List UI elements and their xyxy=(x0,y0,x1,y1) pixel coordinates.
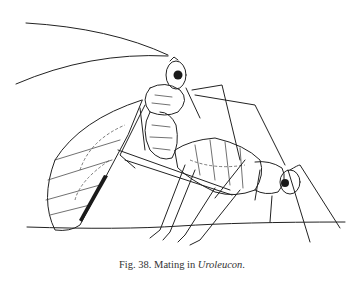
male-leg xyxy=(118,150,230,190)
female-thorax xyxy=(255,162,284,194)
female-leg xyxy=(178,188,215,242)
male-abdomen xyxy=(145,112,177,159)
female-leg xyxy=(255,170,260,200)
ground-line xyxy=(27,222,345,228)
male-leg xyxy=(125,160,232,195)
male-leg xyxy=(140,108,145,150)
male-leg xyxy=(192,85,240,160)
caption-suffix: . xyxy=(242,259,245,270)
caption-taxon: Uroleucon xyxy=(198,259,243,270)
female-leg xyxy=(215,160,245,198)
figure-label: Fig. 38. xyxy=(119,259,151,270)
male-antenna-upper xyxy=(26,23,168,55)
figure-illustration xyxy=(0,0,364,250)
male-thorax xyxy=(145,84,185,115)
female-eye-icon xyxy=(281,179,289,187)
male-leg xyxy=(195,95,285,165)
aphid-mating-drawing xyxy=(0,0,364,250)
male-eye-icon xyxy=(174,71,183,80)
male-antenna-lower xyxy=(16,56,168,84)
wing-stigma xyxy=(79,175,108,222)
caption-prefix: Mating in xyxy=(154,259,198,270)
figure-caption: Fig. 38. Mating in Uroleucon. xyxy=(0,259,364,270)
